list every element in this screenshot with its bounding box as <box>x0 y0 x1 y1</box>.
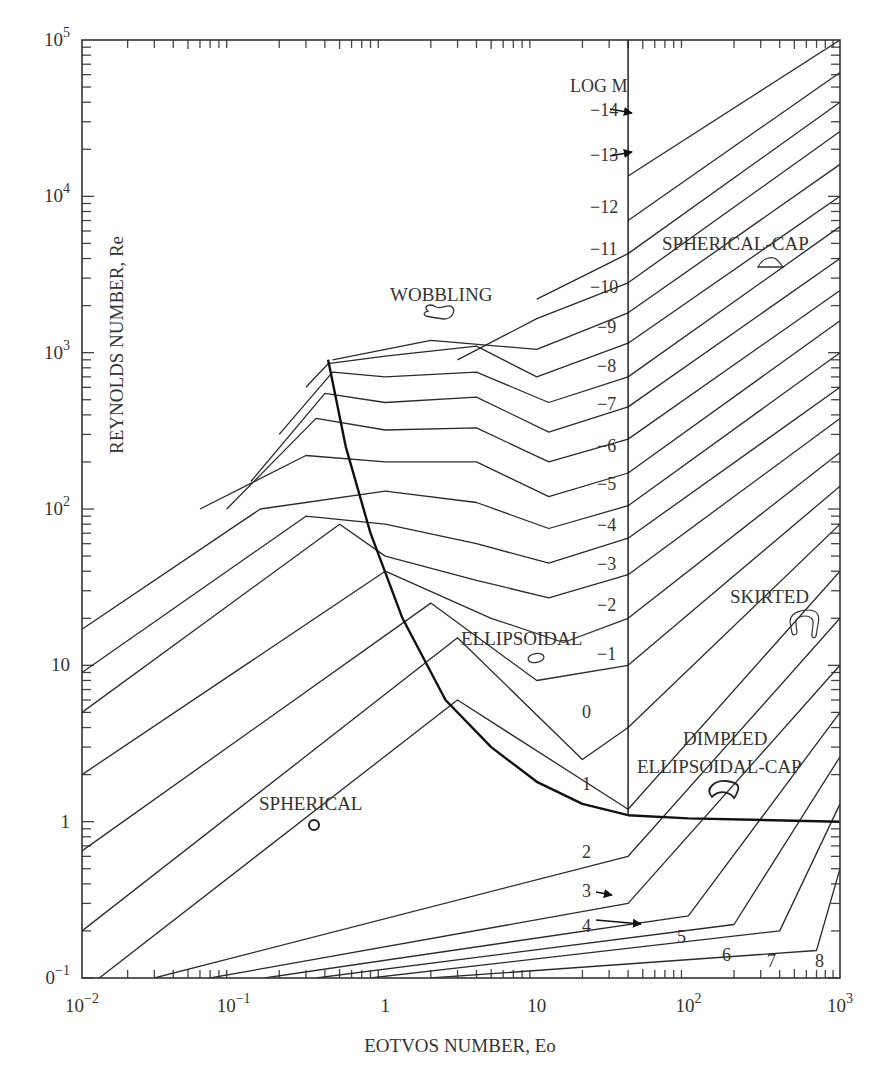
morton-label: −4 <box>597 515 616 535</box>
morton-line <box>333 164 840 359</box>
region-label-ellipsoidal: ELLIPSOIDAL <box>461 628 582 649</box>
ellipsoidal-bubble-icon <box>527 652 544 664</box>
morton-label: −10 <box>590 277 618 297</box>
morton-label: 5 <box>677 927 686 947</box>
y-tick-label: 104 <box>44 181 70 206</box>
morton-line <box>628 73 840 221</box>
morton-line <box>210 665 840 978</box>
morton-label: 3 <box>582 881 591 901</box>
y-tick-label: 0−1 <box>46 963 70 988</box>
morton-line <box>279 227 840 435</box>
spherical-bubble-icon <box>309 820 319 830</box>
morton-label: −5 <box>597 474 616 494</box>
morton-line <box>154 618 840 978</box>
morton-label: −14 <box>590 100 618 120</box>
region-label-spherical-cap: SPHERICAL-CAP <box>662 233 809 254</box>
morton-line <box>82 353 840 630</box>
plot-frame <box>82 40 840 978</box>
skirted-bubble-icon <box>790 610 819 638</box>
morton-line <box>628 40 840 176</box>
morton-label: −6 <box>597 436 616 456</box>
axis-ticks <box>82 40 840 978</box>
morton-label: 8 <box>815 951 824 971</box>
region-label-dimpled: DIMPLED <box>683 728 767 749</box>
y-tick-label: 102 <box>44 494 70 519</box>
morton-line <box>306 196 840 387</box>
x-axis-label: EOTVOS NUMBER, Eo <box>364 1035 556 1056</box>
wobbling-bubble-icon <box>424 305 453 319</box>
x-tick-label: 102 <box>675 991 701 1016</box>
y-tick-label: 105 <box>44 25 70 50</box>
morton-line <box>265 712 841 978</box>
x-tick-label: 10−2 <box>65 991 99 1016</box>
morton-label: 0 <box>582 702 591 722</box>
morton-label: 4 <box>582 916 591 936</box>
x-tick-label: 10 <box>527 995 546 1016</box>
pointer-arrow <box>596 892 612 895</box>
pointer-arrow <box>596 920 641 924</box>
x-tick-label: 103 <box>827 991 853 1016</box>
x-tick-label: 1 <box>380 995 390 1016</box>
morton-label: −8 <box>597 356 616 376</box>
morton-label: −7 <box>597 394 616 414</box>
morton-label: −9 <box>597 317 616 337</box>
x-tick-label: 10−1 <box>217 991 251 1016</box>
y-tick-label: 1 <box>61 811 71 832</box>
y-axis-label: REYNOLDS NUMBER, Re <box>106 236 127 454</box>
region-label-wobbling: WOBBLING <box>390 284 493 305</box>
morton-label: −13 <box>590 145 618 165</box>
morton-label: −12 <box>590 197 618 217</box>
y-tick-label: 103 <box>44 338 70 363</box>
morton-label: −1 <box>597 644 616 664</box>
morton-label: 7 <box>767 951 776 971</box>
y-tick-label: 10 <box>51 654 70 675</box>
morton-line <box>251 259 840 482</box>
tick-labels: 10−210−11101021031051041031021010−1 <box>44 25 853 1016</box>
morton-line <box>537 102 840 299</box>
morton-label: −2 <box>597 595 616 615</box>
morton-label: 6 <box>722 945 731 965</box>
bubble-shape-regime-chart: 10−210−11101021031051041031021010−1 −14−… <box>0 0 886 1083</box>
log-m-title: LOG M <box>570 76 628 96</box>
morton-label: −11 <box>590 239 617 259</box>
morton-label: 1 <box>582 774 591 794</box>
region-label-ellipsoidal-cap: ELLIPSOIDAL-CAP <box>637 756 802 777</box>
morton-label: −3 <box>597 554 616 574</box>
morton-label: 2 <box>582 842 591 862</box>
region-label-spherical: SPHERICAL <box>259 793 362 814</box>
spherical-cap-bubble-icon <box>758 258 783 267</box>
morton-number-lines <box>82 40 840 978</box>
region-label-skirted: SKIRTED <box>730 586 809 607</box>
